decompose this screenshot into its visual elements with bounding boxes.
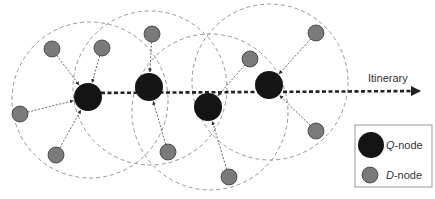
d-to-q-arrow	[60, 110, 81, 148]
d-node	[160, 144, 176, 160]
d-node	[44, 41, 60, 57]
q-node	[194, 93, 222, 121]
legend-d-node-label: D-node	[386, 169, 422, 181]
q-node	[74, 83, 102, 111]
itinerary-label: Itinerary	[368, 72, 408, 84]
d-node	[308, 123, 324, 139]
d-nodes	[12, 25, 324, 185]
q-node	[135, 73, 163, 101]
range-circles	[12, 4, 348, 190]
d-to-q-arrow	[280, 95, 311, 125]
d-to-q-arrow	[57, 55, 79, 85]
legend-d-node-icon	[362, 167, 378, 183]
d-to-q-arrow	[153, 101, 166, 144]
q-node	[255, 71, 283, 99]
d-node	[94, 40, 110, 56]
itinerary-diagram: Itinerary Q-node D-node	[0, 0, 435, 199]
d-node	[242, 51, 258, 67]
d-to-q-arrow	[279, 39, 311, 74]
d-node	[12, 106, 28, 122]
d-to-q-arrow	[150, 42, 152, 72]
d-to-q-arrow	[28, 101, 74, 112]
legend: Q-node D-node	[355, 125, 432, 187]
d-node	[221, 169, 237, 185]
legend-q-node-icon	[358, 132, 384, 158]
q-nodes	[74, 71, 283, 121]
d-node	[308, 25, 324, 41]
d-node	[48, 147, 64, 163]
d-to-q-arrow	[92, 56, 100, 83]
d-node	[144, 26, 160, 42]
legend-q-node-label: Q-node	[386, 139, 423, 151]
